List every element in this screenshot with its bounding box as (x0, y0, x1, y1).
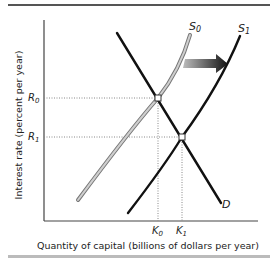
s0-label: S0 (189, 20, 201, 34)
r1-label: R1 (28, 131, 39, 144)
y-axis-title: Interest rate (percent per year) (13, 51, 24, 200)
k0-label: K0 (152, 225, 164, 238)
shift-arrow-icon (183, 54, 228, 73)
r0-label: R0 (28, 92, 40, 105)
demand-line (117, 33, 221, 203)
s1-label: S1 (238, 22, 250, 36)
equilibrium-point-0 (155, 95, 161, 101)
k1-label: K1 (176, 225, 187, 238)
bottom-rule (8, 255, 270, 258)
capital-market-diagram: S0 S1 D R0 R1 K0 K1 Quantity of capital … (0, 0, 276, 260)
x-axis-title: Quantity of capital (billions of dollars… (37, 240, 259, 251)
equilibrium-point-1 (179, 134, 185, 140)
d-label: D (222, 198, 230, 211)
top-rule (8, 4, 270, 6)
